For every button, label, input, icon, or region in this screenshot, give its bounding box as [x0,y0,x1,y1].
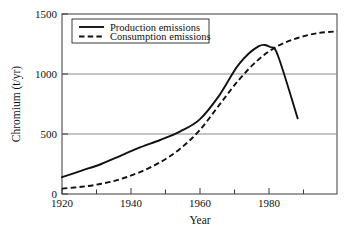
x-axis-ticks [62,188,304,194]
chart-figure: 1500 1000 500 0 1920 1940 1960 1980 Year… [0,0,358,231]
y-tick-label-1500: 1500 [35,8,58,20]
x-tick-label-1920: 1920 [51,197,74,209]
series-production-emissions [62,45,298,177]
x-axis-title: Year [189,214,210,226]
gridlines [62,74,337,134]
y-axis-title: Chromium (t/yr) [10,66,23,143]
x-tick-label-1980: 1980 [258,197,281,209]
x-tick-label-1940: 1940 [120,197,143,209]
chart-canvas: 1500 1000 500 0 1920 1940 1960 1980 Year… [0,0,358,231]
y-tick-label-1000: 1000 [35,68,58,80]
x-tick-label-1960: 1960 [189,197,212,209]
chart-legend: Production emissions Consumption emissio… [72,19,211,43]
y-axis-ticks [62,14,68,194]
y-tick-label-500: 500 [41,128,58,140]
legend-label-consumption: Consumption emissions [110,31,211,42]
